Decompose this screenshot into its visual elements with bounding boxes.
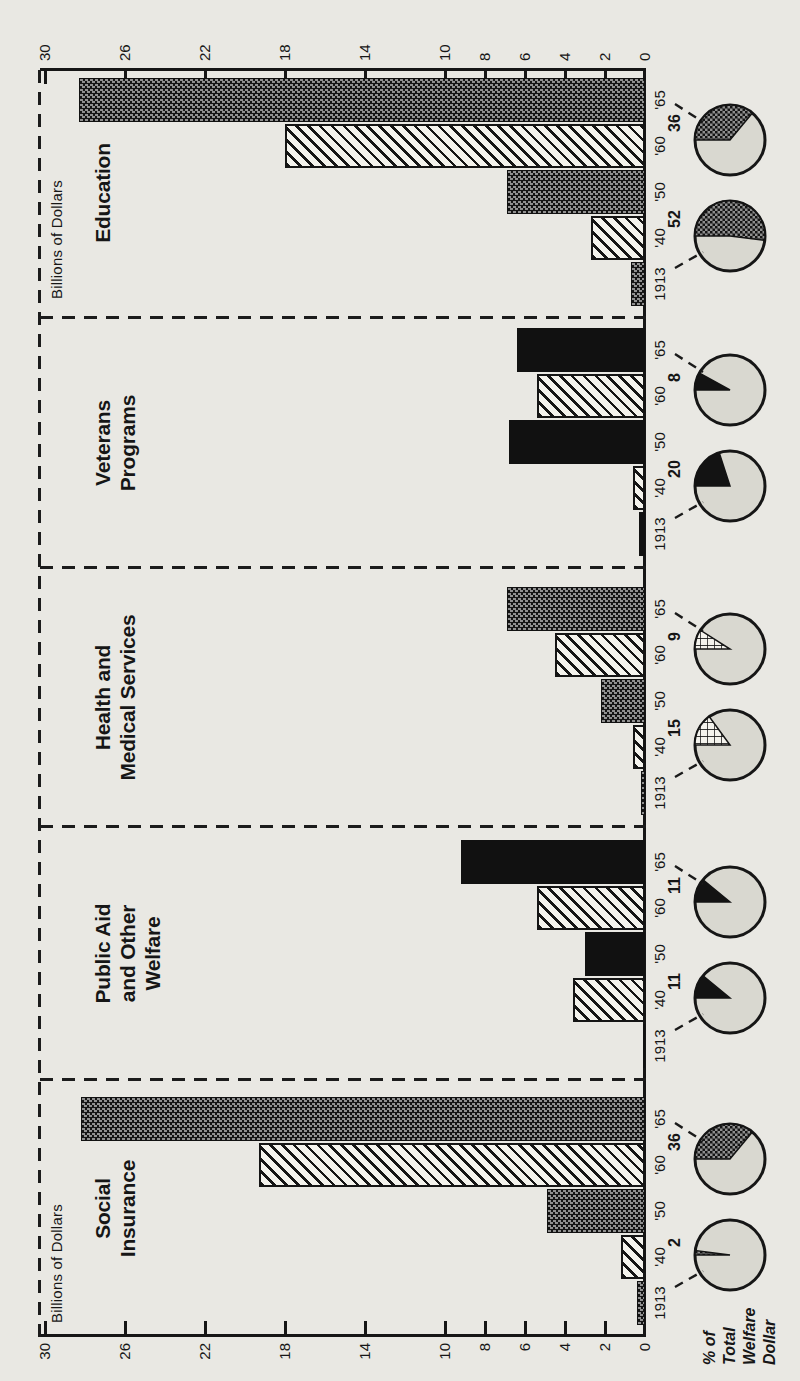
pie-percent-label: 36	[666, 1111, 684, 1151]
bar	[641, 771, 645, 815]
left-axis-tick-label: 22	[196, 1343, 214, 1379]
pie-wedge	[695, 880, 730, 902]
right-axis-tick-label: 18	[276, 44, 294, 61]
bar	[285, 124, 645, 168]
section-title-line: Public Aid	[90, 834, 115, 1074]
pie-percent-label: 8	[666, 342, 684, 382]
left-axis-tick-label: 4	[556, 1343, 574, 1379]
pie-wedge	[695, 1251, 730, 1255]
axis-title-left: Billions of Dollars	[48, 1204, 65, 1323]
bar	[591, 216, 645, 260]
right-axis-line	[40, 68, 646, 71]
welfare-expenditure-chart: Billions of Dollars Billions of Dollars …	[0, 0, 800, 1381]
pie-percent-label: 52	[666, 188, 684, 228]
top-dashed-border	[38, 68, 41, 1337]
left-axis-tick-label: 8	[476, 1343, 494, 1379]
pie-leader-line	[675, 252, 703, 268]
bar	[547, 1189, 645, 1233]
section-separator	[40, 316, 646, 319]
right-axis-tick-label: 10	[436, 44, 454, 61]
pie-caption-line: % of	[700, 1307, 720, 1365]
year-label: 1913	[651, 258, 668, 310]
scanned-chart-page: Billions of Dollars Billions of Dollars …	[0, 0, 800, 1381]
pie-circle	[695, 614, 765, 684]
left-axis-tick	[284, 1321, 287, 1334]
pie-circle	[695, 867, 765, 937]
left-axis-tick	[604, 1321, 607, 1334]
bar	[643, 1024, 645, 1068]
section-title: Public Aidand OtherWelfare	[90, 834, 165, 1074]
pie-caption-line: Dollar	[760, 1307, 780, 1365]
bar	[601, 679, 645, 723]
pie-leader-line	[675, 1014, 703, 1030]
right-axis-tick-label: 4	[556, 53, 574, 61]
left-axis-tick-label: 18	[276, 1343, 294, 1379]
pie-circle	[695, 451, 765, 521]
bar	[461, 840, 645, 884]
pie-percent-label: 2	[666, 1207, 684, 1247]
bar	[517, 328, 645, 372]
section-separator	[40, 566, 646, 569]
right-axis-tick-label: 8	[476, 53, 494, 61]
section-title-line: and Other	[115, 834, 140, 1074]
section-title: VeteransPrograms	[90, 323, 140, 563]
pie-wedge	[695, 453, 730, 486]
bar	[631, 262, 645, 306]
section-title-line: Programs	[115, 323, 140, 563]
right-axis-tick-label: 22	[196, 44, 214, 61]
bar	[633, 725, 645, 769]
bar	[637, 1281, 645, 1325]
left-axis-tick	[44, 1321, 47, 1334]
pie-caption-line: Total	[720, 1307, 740, 1365]
left-axis-tick	[484, 1321, 487, 1334]
section-title-line: Veterans	[90, 323, 115, 563]
right-axis-tick-label: 6	[516, 53, 534, 61]
bar	[537, 886, 645, 930]
right-axis-tick	[44, 71, 47, 84]
pie-caption-line: Welfare	[740, 1307, 760, 1365]
left-axis-tick-label: 2	[596, 1343, 614, 1379]
pie-percent-label: 9	[666, 601, 684, 641]
year-label: 1913	[651, 767, 668, 819]
section-title-line: Welfare	[140, 834, 165, 1074]
pie-wedge	[695, 976, 730, 998]
pie-wedge	[695, 1124, 752, 1159]
bar	[639, 512, 645, 556]
bar	[621, 1235, 645, 1279]
left-axis-tick	[564, 1321, 567, 1334]
pie-circle	[695, 710, 765, 780]
bar	[509, 420, 645, 464]
right-axis-tick-label: 0	[636, 53, 654, 61]
left-axis-tick-label: 14	[356, 1343, 374, 1379]
left-axis-tick	[204, 1321, 207, 1334]
year-label: 1913	[651, 1020, 668, 1072]
year-label: 1913	[651, 508, 668, 560]
pie-percent-label: 15	[666, 697, 684, 737]
pie-row-caption: % of Total Welfare Dollar	[700, 1307, 780, 1365]
bar	[507, 170, 645, 214]
left-axis-tick	[364, 1321, 367, 1334]
pie-circle	[695, 105, 765, 175]
pie-circle	[695, 1124, 765, 1194]
pie-circle	[695, 963, 765, 1033]
bar	[507, 587, 645, 631]
pie-circle	[695, 201, 765, 271]
pie-leader-line	[675, 761, 703, 777]
right-axis-tick-label: 26	[116, 44, 134, 61]
left-axis-tick	[444, 1321, 447, 1334]
right-axis-tick-label: 2	[596, 53, 614, 61]
bar	[81, 1097, 645, 1141]
pie-wedge	[695, 201, 765, 241]
left-axis-tick-label: 26	[116, 1343, 134, 1379]
left-axis-line	[40, 1334, 646, 1337]
section-title-line: Health and	[90, 578, 115, 818]
pie-wedge	[695, 630, 730, 649]
bar	[573, 978, 645, 1022]
left-axis-tick-label: 6	[516, 1343, 534, 1379]
axis-title-right: Billions of Dollars	[48, 180, 65, 299]
section-title-line: Medical Services	[115, 578, 140, 818]
year-label: 1913	[651, 1277, 668, 1329]
bar	[259, 1143, 645, 1187]
section-separator	[40, 825, 646, 828]
right-axis-tick-label: 14	[356, 44, 374, 61]
